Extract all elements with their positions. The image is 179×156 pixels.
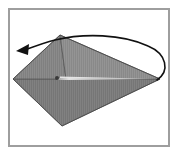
arrow-head-icon bbox=[16, 44, 29, 55]
paper-upper-left-panel bbox=[13, 35, 66, 79]
paper-body bbox=[13, 35, 160, 126]
origami-illustration bbox=[0, 0, 179, 156]
origami-figure: Kite-shaped folded paper with a curved f… bbox=[0, 0, 179, 156]
crease-center-dot bbox=[55, 76, 59, 80]
paper-lower-panel bbox=[13, 79, 160, 126]
